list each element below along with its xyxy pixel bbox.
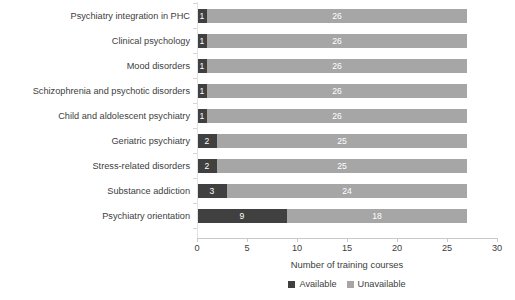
x-axis-tick-label: 15 [332,243,362,253]
chart-row: Clinical psychology126 [0,34,515,59]
legend-swatch-available-icon [288,281,295,288]
chart-row: Psychiatry integration in PHC126 [0,9,515,34]
bar-segment-unavailable[interactable]: 26 [207,9,467,23]
bar-segment-available[interactable]: 1 [197,84,207,98]
chart-row: Substance addiction324 [0,184,515,209]
y-axis-tick [193,28,197,29]
stacked-bar: 918 [197,209,467,223]
stacked-bar: 126 [197,34,467,48]
stacked-bar: 126 [197,9,467,23]
chart-row: Schizophrenia and psychotic disorders126 [0,84,515,109]
legend-label-available: Available [299,279,336,289]
bar-segment-unavailable[interactable]: 26 [207,59,467,73]
chart-legend: Available Unavailable [197,279,497,289]
chart-row: Child and aldolescent psychiatry126 [0,109,515,134]
bar-segment-available[interactable]: 1 [197,34,207,48]
category-label: Stress-related disorders [5,159,190,173]
x-axis-tick-label: 0 [182,243,212,253]
bar-segment-unavailable[interactable]: 24 [227,184,467,198]
x-axis-tick [197,238,198,242]
category-label: Child and aldolescent psychiatry [5,109,190,123]
legend-swatch-unavailable-icon [347,281,354,288]
y-axis-tick [193,128,197,129]
category-label: Psychiatry integration in PHC [5,9,190,23]
chart-row: Stress-related disorders225 [0,159,515,184]
legend-label-unavailable: Unavailable [358,279,406,289]
stacked-bar: 225 [197,159,467,173]
category-label: Geriatric psychiatry [5,134,190,148]
x-axis-tick [397,238,398,242]
y-axis-tick [193,78,197,79]
bar-segment-available[interactable]: 1 [197,59,207,73]
bar-segment-unavailable[interactable]: 26 [207,109,467,123]
bar-segment-available[interactable]: 3 [197,184,227,198]
bar-segment-unavailable[interactable]: 25 [217,159,467,173]
stacked-bar: 126 [197,59,467,73]
x-axis-tick [297,238,298,242]
category-label: Substance addiction [5,184,190,198]
bar-segment-unavailable[interactable]: 18 [287,209,467,223]
y-axis-tick [193,103,197,104]
chart-row: Geriatric psychiatry225 [0,134,515,159]
category-label: Psychiatry orientation [5,209,190,223]
bar-segment-available[interactable]: 1 [197,9,207,23]
bar-segment-unavailable[interactable]: 26 [207,84,467,98]
stacked-bar: 126 [197,109,467,123]
y-axis-tick [193,53,197,54]
stacked-bar-chart: Psychiatry integration in PHC126Clinical… [0,0,515,300]
x-axis-tick [447,238,448,242]
stacked-bar: 126 [197,84,467,98]
stacked-bar: 324 [197,184,467,198]
category-label: Mood disorders [5,59,190,73]
x-axis-tick-label: 20 [382,243,412,253]
y-axis-tick [193,178,197,179]
stacked-bar: 225 [197,134,467,148]
x-axis-tick-label: 10 [282,243,312,253]
category-label: Schizophrenia and psychotic disorders [5,84,190,98]
bar-segment-available[interactable]: 9 [197,209,287,223]
y-axis-tick [193,3,197,4]
bar-segment-available[interactable]: 2 [197,159,217,173]
x-axis-tick-label: 25 [432,243,462,253]
y-axis-line [197,2,198,238]
x-axis-label: Number of training courses [197,259,497,270]
y-axis-tick [193,228,197,229]
legend-item-unavailable[interactable]: Unavailable [347,279,406,289]
x-axis-tick [497,238,498,242]
x-axis-tick [347,238,348,242]
chart-row: Mood disorders126 [0,59,515,84]
bar-segment-available[interactable]: 2 [197,134,217,148]
x-axis-tick-label: 30 [482,243,512,253]
category-label: Clinical psychology [5,34,190,48]
x-axis-tick [247,238,248,242]
bar-segment-unavailable[interactable]: 25 [217,134,467,148]
bar-segment-available[interactable]: 1 [197,109,207,123]
x-axis-tick-label: 5 [232,243,262,253]
chart-row: Psychiatry orientation918 [0,209,515,234]
y-axis-tick [193,153,197,154]
legend-item-available[interactable]: Available [288,279,336,289]
y-axis-tick [193,203,197,204]
bar-segment-unavailable[interactable]: 26 [207,34,467,48]
